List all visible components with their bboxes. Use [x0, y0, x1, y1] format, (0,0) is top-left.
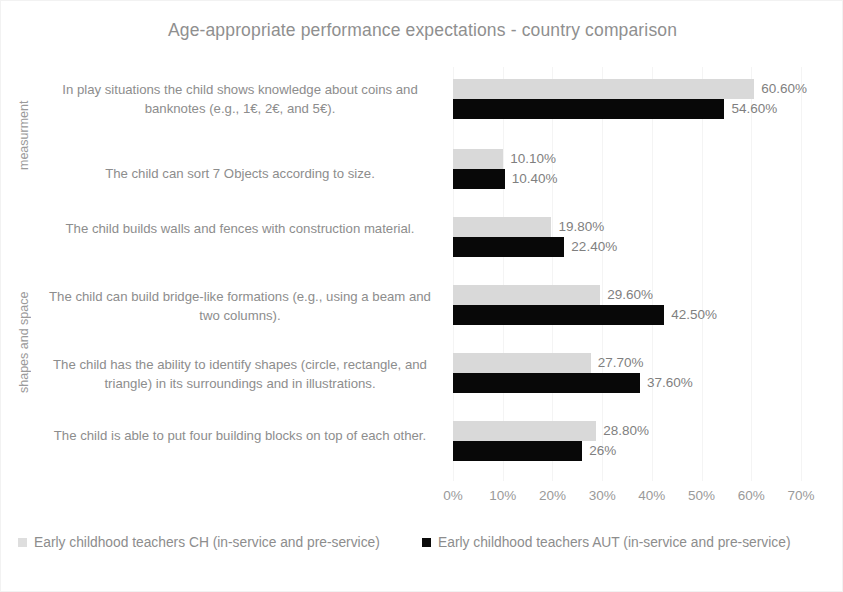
chart-category-row: The child builds walls and fences with c…: [1, 209, 843, 263]
bar-ch[interactable]: [453, 353, 591, 373]
x-axis-tick-label: 20%: [539, 488, 566, 503]
bar-value-label: 10.40%: [505, 169, 558, 189]
bar-value-label: 54.60%: [724, 99, 777, 119]
bar-aut[interactable]: [453, 441, 582, 461]
bar-aut[interactable]: [453, 237, 564, 257]
bar-aut[interactable]: [453, 99, 724, 119]
bar-ch[interactable]: [453, 285, 600, 305]
legend-item-ch[interactable]: Early childhood teachers CH (in-service …: [18, 535, 380, 550]
chart-category-row: The child is able to put four building b…: [1, 413, 843, 467]
chart-container: Age-appropriate performance expectations…: [0, 0, 843, 592]
category-label: The child can sort 7 Objects according t…: [37, 164, 443, 183]
x-axis-tick-label: 70%: [787, 488, 814, 503]
category-label: The child can build bridge-like formatio…: [37, 287, 443, 325]
bar-value-label: 37.60%: [640, 373, 693, 393]
bar-value-label: 26%: [582, 441, 616, 461]
bar-ch[interactable]: [453, 79, 754, 99]
x-axis-tick-label: 50%: [688, 488, 715, 503]
category-label: The child has the ability to identify sh…: [37, 355, 443, 393]
category-label: The child builds walls and fences with c…: [37, 219, 443, 238]
category-label: The child is able to put four building b…: [37, 426, 443, 445]
legend-item-aut[interactable]: Early childhood teachers AUT (in-service…: [422, 535, 790, 550]
chart-title: Age-appropriate performance expectations…: [1, 20, 843, 41]
bar-value-label: 60.60%: [754, 79, 807, 99]
chart-legend: Early childhood teachers CH (in-service …: [1, 535, 843, 561]
bar-value-label: 29.60%: [600, 285, 653, 305]
bar-value-label: 28.80%: [596, 421, 649, 441]
bar-ch[interactable]: [453, 149, 503, 169]
chart-category-row: In play situations the child shows knowl…: [1, 71, 843, 125]
x-axis: 0%10%20%30%40%50%60%70%: [453, 488, 801, 508]
legend-swatch-icon-aut: [422, 538, 431, 547]
bar-ch[interactable]: [453, 217, 551, 237]
chart-category-row: The child can sort 7 Objects according t…: [1, 141, 843, 195]
bar-aut[interactable]: [453, 169, 505, 189]
category-label: In play situations the child shows knowl…: [37, 80, 443, 118]
x-axis-tick-label: 40%: [638, 488, 665, 503]
x-axis-tick-label: 0%: [443, 488, 463, 503]
chart-category-row: The child can build bridge-like formatio…: [1, 277, 843, 331]
x-axis-tick-label: 30%: [589, 488, 616, 503]
x-axis-tick-label: 10%: [489, 488, 516, 503]
bar-value-label: 19.80%: [551, 217, 604, 237]
bar-value-label: 22.40%: [564, 237, 617, 257]
bar-aut[interactable]: [453, 373, 640, 393]
bar-value-label: 10.10%: [503, 149, 556, 169]
bar-value-label: 42.50%: [664, 305, 717, 325]
legend-label-ch: Early childhood teachers CH (in-service …: [34, 535, 380, 550]
bar-aut[interactable]: [453, 305, 664, 325]
legend-swatch-icon-ch: [18, 538, 27, 547]
x-axis-tick-label: 60%: [738, 488, 765, 503]
bar-value-label: 27.70%: [591, 353, 644, 373]
bar-ch[interactable]: [453, 421, 596, 441]
legend-label-aut: Early childhood teachers AUT (in-service…: [438, 535, 790, 550]
chart-category-row: The child has the ability to identify sh…: [1, 345, 843, 399]
